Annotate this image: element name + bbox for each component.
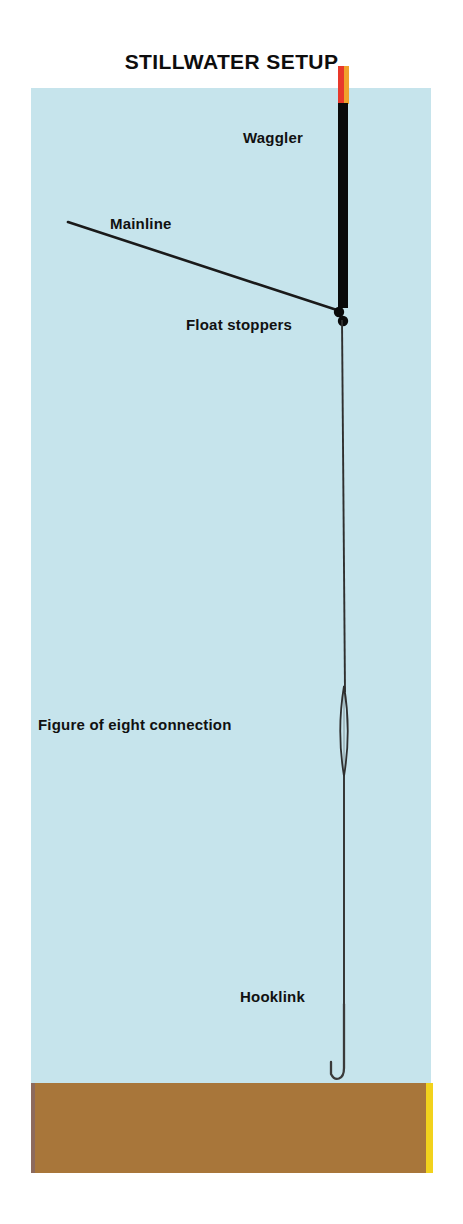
float-stopper-upper bbox=[334, 307, 344, 317]
label-figure-of-eight: Figure of eight connection bbox=[38, 716, 232, 733]
mainline-segment bbox=[68, 222, 340, 311]
label-waggler: Waggler bbox=[243, 129, 303, 146]
label-mainline: Mainline bbox=[110, 215, 172, 232]
descending-line bbox=[342, 320, 345, 692]
float-stopper-lower bbox=[338, 316, 348, 326]
label-hooklink: Hooklink bbox=[240, 988, 305, 1005]
label-float-stoppers: Float stoppers bbox=[186, 316, 292, 333]
rig-line-art bbox=[0, 0, 463, 1224]
fishing-hook bbox=[331, 1004, 344, 1079]
stillwater-rig-diagram: STILLWATER SETUP Waggler Mainline Float … bbox=[0, 0, 463, 1224]
